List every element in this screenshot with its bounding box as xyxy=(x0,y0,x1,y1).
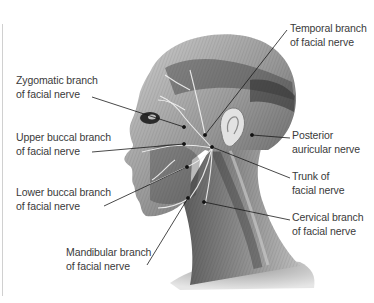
label-upper-buccal-branch: Upper buccal branch of facial nerve xyxy=(16,131,111,158)
label-line-2: of facial nerve xyxy=(290,36,367,50)
label-line-2: of facial nerve xyxy=(16,88,98,102)
label-trunk-of-facial-nerve: Trunk of facial nerve xyxy=(292,170,345,197)
label-line-2: facial nerve xyxy=(292,184,345,198)
leader-cervical xyxy=(204,202,290,220)
label-zygomatic-branch: Zygomatic branch of facial nerve xyxy=(16,74,98,101)
label-line-1: Posterior xyxy=(292,129,360,143)
label-line-1: Zygomatic branch xyxy=(16,74,98,88)
label-mandibular-branch: Mandibular branch of facial nerve xyxy=(66,246,151,273)
label-line-1: Mandibular branch xyxy=(66,246,151,260)
label-posterior-auricular-nerve: Posterior auricular nerve xyxy=(292,129,360,156)
label-line-2: auricular nerve xyxy=(292,143,360,157)
leader-lower-buccal xyxy=(104,167,187,206)
label-line-2: of facial nerve xyxy=(66,260,151,274)
label-line-1: Trunk of xyxy=(292,170,345,184)
leader-mandibular xyxy=(147,198,188,265)
label-line-2: of facial nerve xyxy=(16,200,111,214)
label-line-2: of facial nerve xyxy=(16,145,111,159)
label-temporal-branch: Temporal branch of facial nerve xyxy=(290,22,367,49)
leader-trunk xyxy=(212,147,290,178)
leader-zygomatic xyxy=(92,97,184,127)
label-line-1: Cervical branch xyxy=(292,211,363,225)
leader-temporal xyxy=(205,30,287,135)
label-lower-buccal-branch: Lower buccal branch of facial nerve xyxy=(16,186,111,213)
label-line-1: Lower buccal branch xyxy=(16,186,111,200)
label-line-1: Upper buccal branch xyxy=(16,131,111,145)
label-line-2: of facial nerve xyxy=(292,225,363,239)
label-line-1: Temporal branch xyxy=(290,22,367,36)
label-cervical-branch: Cervical branch of facial nerve xyxy=(292,211,363,238)
leader-posterior-auricular xyxy=(252,135,290,138)
